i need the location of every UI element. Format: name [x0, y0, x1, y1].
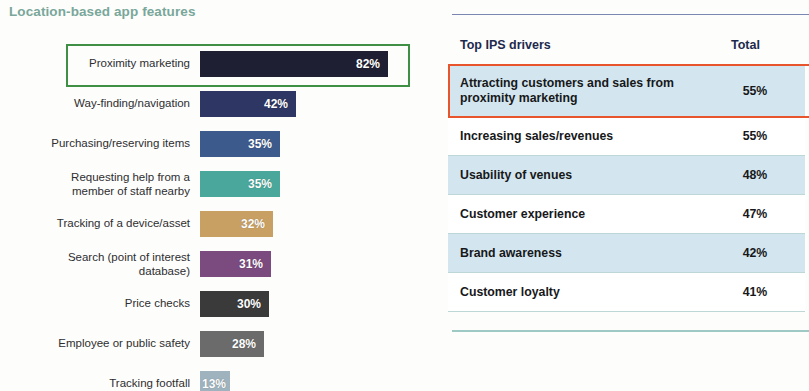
bar-value-label: 13%	[202, 377, 226, 391]
bar-row: Search (point of interest database)31%	[0, 244, 432, 284]
bar-fill: 82%	[200, 51, 388, 77]
slide-canvas: Location-based app features Proximity ma…	[0, 0, 809, 391]
chart-title: Location-based app features	[9, 4, 196, 19]
bar-row: Employee or public safety28%	[0, 324, 432, 364]
bar-row: Price checks30%	[0, 284, 432, 324]
table-cell-driver: Brand awareness	[460, 246, 722, 261]
bar-track: 30%	[200, 291, 269, 317]
bar-row: Purchasing/reserving items35%	[0, 124, 432, 164]
bar-category-label: Tracking of a device/asset	[10, 217, 190, 231]
bar-value-label: 35%	[248, 177, 272, 191]
bar-row: Way-finding/navigation42%	[0, 84, 432, 124]
bar-row: Proximity marketing82%	[0, 44, 432, 84]
bar-track: 31%	[200, 251, 271, 277]
bar-track: 42%	[200, 91, 296, 117]
table-cell-driver: Increasing sales/revenues	[460, 129, 722, 144]
table-cell-total: 42%	[731, 246, 779, 260]
bar-track: 82%	[200, 51, 388, 77]
table-cell-total: 55%	[731, 129, 779, 143]
table-row[interactable]: Increasing sales/revenues55%	[448, 116, 805, 156]
bar-row: Tracking footfall13%	[0, 364, 432, 391]
column-header-total: Total	[731, 38, 760, 52]
bar-category-label: Tracking footfall	[10, 377, 190, 391]
bar-fill: 13%	[200, 371, 230, 391]
column-header-drivers: Top IPS drivers	[460, 38, 551, 52]
table-bottom-divider	[452, 330, 809, 332]
bar-row: Requesting help from a member of staff n…	[0, 164, 432, 204]
table-cell-driver: Attracting customers and sales from prox…	[460, 76, 722, 106]
bar-list: Proximity marketing82%Way-finding/naviga…	[0, 44, 432, 391]
bar-value-label: 30%	[237, 297, 261, 311]
bar-track: 35%	[200, 131, 280, 157]
table-body: Attracting customers and sales from prox…	[448, 65, 809, 312]
table-row[interactable]: Usability of venues48%	[448, 155, 805, 195]
bar-category-label: Purchasing/reserving items	[10, 137, 190, 151]
bar-value-label: 42%	[264, 97, 288, 111]
bar-category-label: Proximity marketing	[10, 57, 190, 71]
bar-category-label: Search (point of interest database)	[10, 251, 190, 278]
location-features-bar-chart: Location-based app features Proximity ma…	[0, 0, 432, 391]
bar-value-label: 82%	[356, 57, 380, 71]
bar-category-label: Requesting help from a member of staff n…	[10, 171, 190, 198]
bar-track: 32%	[200, 211, 273, 237]
bar-value-label: 35%	[248, 137, 272, 151]
table-row[interactable]: Customer experience47%	[448, 194, 805, 234]
bar-fill: 30%	[200, 291, 269, 317]
bar-value-label: 28%	[232, 337, 256, 351]
table-cell-driver: Customer loyalty	[460, 285, 722, 300]
bar-fill: 35%	[200, 171, 280, 197]
table-row[interactable]: Brand awareness42%	[448, 233, 805, 273]
bar-fill: 31%	[200, 251, 271, 277]
table-row[interactable]: Customer loyalty41%	[448, 272, 805, 312]
table-top-divider	[452, 14, 809, 15]
bar-track: 13%	[200, 371, 230, 391]
bar-value-label: 31%	[239, 257, 263, 271]
table-cell-total: 47%	[731, 207, 779, 221]
table-cell-driver: Customer experience	[460, 207, 722, 222]
table-header-row: Top IPS drivers Total	[448, 38, 809, 62]
table-cell-total: 55%	[731, 84, 779, 98]
bar-fill: 28%	[200, 331, 264, 357]
bar-track: 28%	[200, 331, 264, 357]
table-cell-driver: Usability of venues	[460, 168, 722, 183]
table-row[interactable]: Attracting customers and sales from prox…	[448, 64, 805, 117]
bar-value-label: 32%	[241, 217, 265, 231]
bar-row: Tracking of a device/asset32%	[0, 204, 432, 244]
bar-fill: 42%	[200, 91, 296, 117]
top-ips-drivers-table: Top IPS drivers Total Attracting custome…	[448, 0, 809, 391]
bar-category-label: Price checks	[10, 297, 190, 311]
bar-track: 35%	[200, 171, 280, 197]
table-cell-total: 48%	[731, 168, 779, 182]
bar-category-label: Way-finding/navigation	[10, 97, 190, 111]
bar-category-label: Employee or public safety	[10, 337, 190, 351]
bar-fill: 35%	[200, 131, 280, 157]
bar-fill: 32%	[200, 211, 273, 237]
table-cell-total: 41%	[731, 285, 779, 299]
